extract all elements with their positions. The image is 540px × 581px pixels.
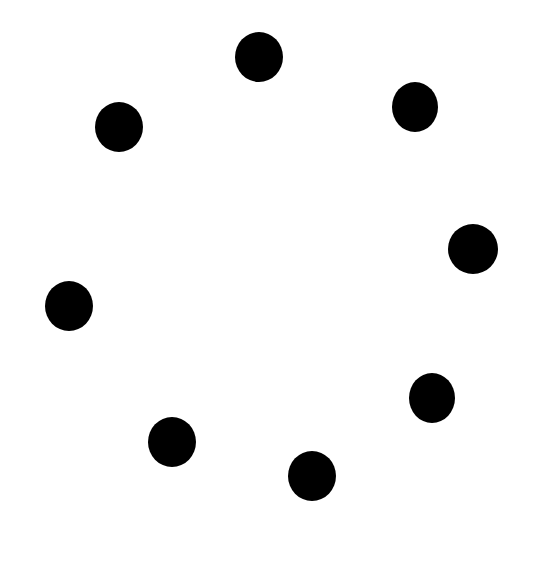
spinner-dot-icon bbox=[45, 281, 93, 331]
spinner-dot-icon bbox=[95, 102, 143, 152]
spinner-dot-icon bbox=[235, 32, 283, 82]
spinner-dot-icon bbox=[448, 224, 498, 274]
spinner-dot-icon bbox=[409, 373, 455, 423]
loading-spinner-canvas bbox=[0, 0, 540, 581]
spinner-dot-icon bbox=[148, 417, 196, 467]
spinner-dot-icon bbox=[392, 82, 438, 132]
spinner-dot-icon bbox=[288, 451, 336, 501]
